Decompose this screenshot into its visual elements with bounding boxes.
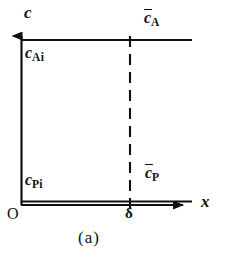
label-bulk-concentration-a: cA	[144, 10, 160, 29]
label-bulk-concentration-p: cP	[145, 165, 159, 184]
tick-label-delta: δ	[125, 206, 133, 221]
distance-axis-label: x	[201, 193, 210, 210]
label-interface-concentration-p: cPi	[25, 172, 43, 191]
concentration-profile-figure: c x cAi cPi cA cP δ O (a)	[0, 0, 230, 261]
label-interface-concentration-a: cAi	[25, 45, 44, 64]
origin-label: O	[7, 206, 19, 222]
concentration-axis-label: c	[24, 4, 32, 21]
figure-drawing	[0, 0, 230, 261]
figure-caption: (a)	[78, 229, 100, 246]
